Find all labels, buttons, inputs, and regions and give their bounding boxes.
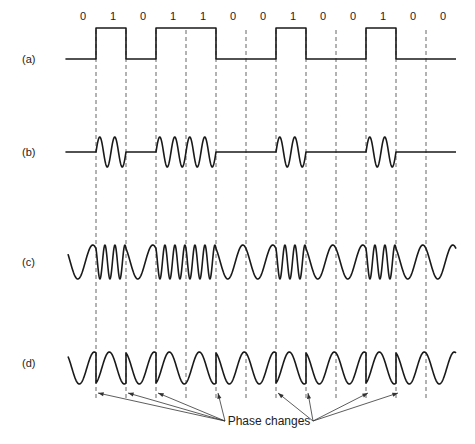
bit-label: 1 [380,10,386,22]
phase-change-arrow [313,393,368,421]
bit-label: 1 [110,10,116,22]
arrowhead-icon [158,393,164,397]
row-label-c: (c) [22,256,35,268]
row-label-a: (a) [22,53,35,65]
bit-boundary-dashes [96,30,426,400]
bit-label: 1 [290,10,296,22]
phase-changes-label: Phase changes [228,414,311,428]
bit-label: 0 [80,10,86,22]
bit-labels: 0101100100100 [80,10,446,22]
bit-label: 0 [140,10,146,22]
bit-label: 0 [410,10,416,22]
phase-change-arrow [98,393,225,421]
arrowhead-icon [128,393,134,397]
arrowhead-icon [392,393,398,397]
bit-label: 1 [170,10,176,22]
bit-label: 0 [440,10,446,22]
phase-change-arrow [158,393,225,421]
binary-signal-wave [66,28,456,59]
arrowhead-icon [362,393,368,397]
bit-label: 0 [230,10,236,22]
row-label-b: (b) [22,146,35,158]
phase-change-arrow [313,393,398,421]
modulation-diagram: 0101100100100 (a) (b) (c) (d) Phase chan… [0,0,475,444]
bit-label: 0 [260,10,266,22]
row-label-d: (d) [22,357,35,369]
phase-modulation-wave [68,352,456,384]
row-labels: (a) (b) (c) (d) [22,53,35,369]
arrowhead-icon [217,393,221,399]
amplitude-modulation-wave [66,137,456,167]
arrowhead-icon [307,393,311,399]
bit-label: 1 [200,10,206,22]
bit-label: 0 [320,10,326,22]
bit-label: 0 [350,10,356,22]
phase-change-arrow [128,393,225,421]
